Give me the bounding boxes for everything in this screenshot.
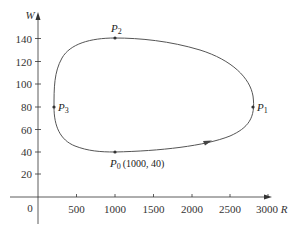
x-tick-3000: 3000	[256, 203, 279, 215]
x-tick-2500: 2500	[219, 203, 242, 215]
point-labels: P0(1000, 40) P1 P2 P3	[57, 22, 268, 171]
label-p3: P3	[57, 101, 69, 115]
y-tick-60: 60	[21, 124, 33, 136]
point-p3	[52, 105, 55, 108]
y-tick-100: 100	[16, 78, 33, 90]
point-p0	[113, 150, 116, 153]
label-p0: P0(1000, 40)	[109, 157, 164, 171]
point-p2	[113, 36, 116, 39]
trajectory-curve	[54, 38, 254, 152]
direction-arrow-icon	[203, 141, 212, 146]
origin-label: 0	[27, 202, 33, 214]
point-p1	[251, 105, 254, 108]
y-tick-40: 40	[21, 146, 33, 158]
y-tick-140: 140	[16, 33, 33, 45]
x-tick-1500: 1500	[143, 203, 166, 215]
x-tick-500: 500	[68, 203, 85, 215]
y-axis-label: W	[25, 9, 35, 21]
marked-points	[52, 36, 254, 153]
label-p2: P2	[110, 22, 122, 36]
x-axis-label: R	[280, 203, 288, 215]
y-axis-arrow-icon	[36, 12, 41, 20]
axes	[10, 12, 272, 224]
x-tick-1000: 1000	[104, 203, 127, 215]
x-tick-labels: 500 1000 1500 2000 2500 3000 R 0	[27, 202, 287, 215]
phase-plane-chart: 500 1000 1500 2000 2500 3000 R 0 20 40 6…	[0, 0, 308, 229]
y-tick-120: 120	[16, 56, 33, 68]
y-tick-80: 80	[21, 101, 33, 113]
y-tick-labels: 20 40 60 80 100 120 140 W	[16, 9, 36, 180]
y-tick-20: 20	[21, 168, 33, 180]
label-p1: P1	[256, 101, 268, 115]
x-tick-2000: 2000	[181, 203, 204, 215]
x-ticks	[77, 194, 269, 197]
